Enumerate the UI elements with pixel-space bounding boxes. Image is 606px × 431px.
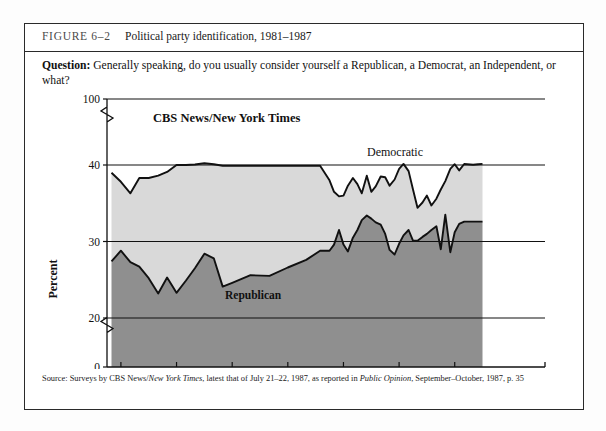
chart-plot-area: 1004030200Percent19811982198319841985198… — [25, 94, 583, 369]
y-tick-label-20: 20 — [89, 312, 101, 324]
figure-header: FIGURE 6–2 Political party identificatio… — [25, 24, 583, 52]
republican-series-label: Republican — [225, 289, 282, 302]
source-note: Source: Surveys by CBS News/New York Tim… — [42, 373, 572, 384]
figure-number-label: FIGURE 6–2 — [42, 30, 111, 42]
y-tick-label-100: 100 — [83, 94, 101, 105]
party-identification-chart: 1004030200Percent19811982198319841985198… — [25, 94, 583, 369]
source-part-5: , September–October, 1987, p. 35 — [411, 374, 524, 383]
democratic-series-label: Democratic — [367, 145, 423, 159]
question-block: Question: Generally speaking, do you usu… — [42, 58, 564, 88]
figure-title: Political party identification, 1981–198… — [125, 30, 312, 42]
question-prefix: Question: — [42, 59, 90, 72]
y-tick-label-30: 30 — [89, 236, 101, 248]
figure-page: FIGURE 6–2 Political party identificatio… — [0, 0, 606, 431]
source-italic-public-opinion: Public Opinion — [360, 374, 411, 383]
figure-box: FIGURE 6–2 Political party identificatio… — [24, 23, 584, 410]
y-tick-label-40: 40 — [89, 159, 101, 171]
question-text: Generally speaking, do you usually consi… — [42, 59, 556, 87]
source-italic-nyt: New York Times — [149, 374, 203, 383]
source-part-3: , latest that of July 21–22, 1987, as re… — [202, 374, 359, 383]
y-axis — [101, 99, 113, 367]
y-tick-label-0: 0 — [94, 361, 100, 369]
source-part-1: Source: Surveys by CBS News/ — [42, 374, 149, 383]
pollster-annotation: CBS News/New York Times — [153, 111, 300, 125]
y-axis-title: Percent — [46, 259, 60, 298]
